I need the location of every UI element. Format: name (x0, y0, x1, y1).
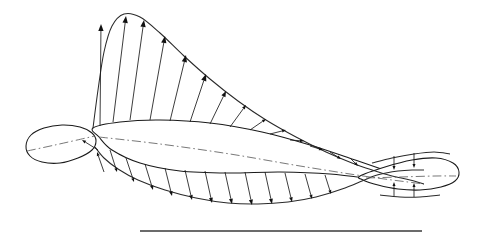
pressure-vector-shaft (145, 164, 152, 186)
pressure-vector (126, 158, 134, 182)
pressure-vector-head (123, 16, 128, 23)
pressure-vector-shaft (98, 156, 104, 172)
leading-edge-slat (26, 125, 96, 163)
pressure-vector-shaft (150, 43, 164, 120)
body-outlines-group (26, 120, 459, 190)
pressure-vector (230, 105, 246, 127)
pressure-vector-shaft (270, 131, 282, 134)
pressure-vector (110, 150, 117, 172)
pressure-vector (225, 172, 233, 204)
pressure-vector (190, 74, 206, 122)
airfoil-pressure-figure (0, 0, 481, 246)
pressure-vector (250, 119, 266, 130)
pressure-vector-shaft (325, 175, 330, 190)
pressure-vector (270, 130, 286, 135)
pressure-vector-head (140, 20, 145, 27)
pressure-vector-head (131, 178, 134, 182)
pressure-vector-head (114, 168, 117, 172)
pressure-vector-shaft (100, 31, 101, 126)
pressure-vector-shaft (190, 81, 204, 122)
pressure-vector-shaft (210, 96, 223, 124)
pressure-vector-shaft (165, 168, 171, 192)
flap-lower-pressure-envelope (380, 195, 440, 197)
pressure-vector-head (98, 24, 103, 31)
pressure-vector (265, 172, 273, 204)
pressure-vector-shaft (245, 172, 251, 200)
pressure-vector-head (262, 119, 266, 123)
pressure-vector-shaft (285, 173, 291, 197)
pressure-vector-shaft (126, 158, 133, 178)
pressure-vector (305, 174, 312, 199)
pressure-vector (205, 171, 213, 203)
pressure-vector-shaft (225, 172, 231, 199)
pressure-vector (210, 91, 226, 124)
pressure-vector-shaft (265, 172, 271, 199)
pressure-vector-shaft (113, 23, 125, 122)
pressure-vector-shaft (185, 170, 191, 195)
pressure-vector-shaft (205, 171, 211, 198)
pressure-vector-head (189, 195, 193, 200)
pressure-vector (113, 16, 128, 122)
pressure-vector-head (201, 74, 206, 81)
pressure-vector-shaft (130, 27, 143, 120)
pressure-vector-shaft (170, 62, 184, 121)
airfoil-diagram-canvas (0, 0, 481, 246)
pressure-vector-shaft (230, 109, 243, 127)
pressure-vector (285, 173, 293, 202)
pressure-vector (97, 152, 104, 172)
pressure-vector-head (150, 185, 153, 190)
pressure-vector-shaft (250, 121, 263, 130)
pressure-vector (145, 164, 153, 190)
pressure-vector (150, 36, 166, 120)
pressure-vector (98, 24, 103, 126)
pressure-vector-shaft (305, 174, 311, 195)
pressure-vector-head (221, 91, 226, 97)
pressure-vector-head (169, 191, 172, 196)
pressure-vector (325, 175, 331, 194)
pressure-vector (130, 20, 146, 120)
pressure-vector (165, 168, 173, 196)
pressure-vector (245, 172, 253, 205)
pressure-vector (170, 55, 187, 121)
